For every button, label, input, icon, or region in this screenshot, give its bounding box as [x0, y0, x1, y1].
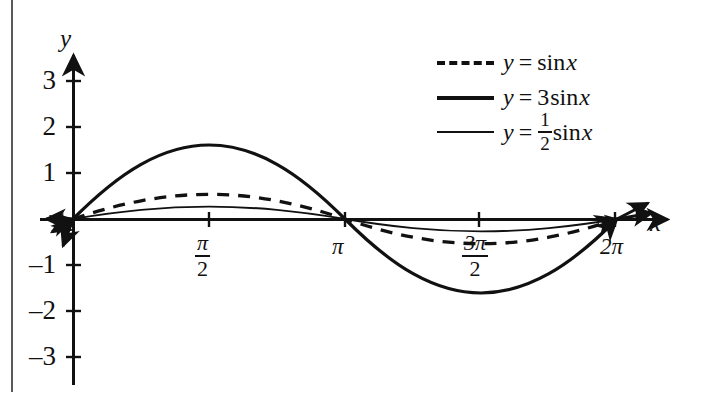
y-axis-label: y [60, 26, 71, 51]
three-pi-over-2-denominator: 2 [462, 257, 488, 280]
legend-variable-1: x [578, 85, 590, 109]
legend-equals-2: = [519, 120, 538, 144]
legend-equals-1: = [519, 85, 538, 109]
legend-item-half-sin-x: y = 1 2 sin x [437, 114, 652, 149]
legend-func-1: sin [550, 85, 578, 109]
x-axis-label: x [650, 210, 661, 235]
legend-fraction-denominator: 2 [538, 133, 552, 153]
legend-variable-2: x [581, 120, 593, 144]
y-tick-label-2: 2 [24, 113, 56, 140]
legend-item-sin-x: y = sin x [437, 44, 652, 79]
legend: y = sin x y = 3 sin x y [437, 44, 652, 149]
pi-over-2-numerator: π [195, 232, 210, 257]
legend-lhs-0: y [503, 50, 519, 74]
legend-fraction-numerator: 1 [538, 110, 552, 132]
legend-label-3sin-x: y = 3 sin x [503, 85, 590, 109]
legend-variable-0: x [565, 50, 577, 74]
legend-func-0: sin [537, 50, 565, 74]
x-tick-label-3pi-over-2: 3π 2 [462, 232, 488, 281]
y-tick-label-neg2: –2 [12, 297, 56, 324]
legend-swatch-solid-line [437, 90, 494, 104]
origin-continuation-arrows [46, 219, 73, 246]
end-continuation-arrows [617, 203, 652, 219]
y-tick-label-1: 1 [24, 159, 56, 186]
legend-swatch-thin-line [437, 125, 494, 139]
legend-fraction-one-half: 1 2 [538, 110, 552, 153]
x-tick-label-pi: π [332, 235, 344, 258]
legend-label-sin-x: y = sin x [503, 50, 577, 74]
legend-coefficient-1: 3 [537, 85, 550, 109]
y-tick-label-3: 3 [24, 67, 56, 94]
pi-over-2-denominator: 2 [195, 257, 210, 280]
x-tick-label-2pi: 2π [600, 235, 623, 258]
legend-label-half-sin-x: y = 1 2 sin x [503, 110, 592, 153]
legend-lhs-2: y [503, 120, 519, 144]
legend-func-2: sin [553, 120, 581, 144]
sine-amplitude-figure: y x 3 2 1 –1 –2 –3 π 2 π 3π 2 2π y = sin [0, 0, 702, 399]
three-pi-over-2-numerator: 3π [462, 232, 488, 257]
x-tick-label-pi-over-2: π 2 [195, 232, 210, 281]
legend-lhs-1: y [503, 85, 519, 109]
legend-equals-0: = [519, 50, 538, 74]
y-tick-label-neg3: –3 [12, 343, 56, 370]
y-tick-label-neg1: –1 [12, 251, 56, 278]
legend-swatch-dashed-line [437, 55, 494, 69]
